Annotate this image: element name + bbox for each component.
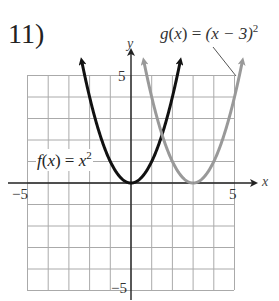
g-label-leader-line bbox=[213, 47, 236, 76]
problem-number: 11) bbox=[8, 18, 44, 50]
x-min-tick-label: −5 bbox=[12, 186, 28, 203]
axes bbox=[8, 52, 254, 300]
x-max-tick-label: 5 bbox=[229, 186, 237, 203]
x-axis-label: x bbox=[262, 174, 268, 190]
y-axis-label: y bbox=[127, 36, 133, 52]
g-function-label: g(x) = (x − 3)2 bbox=[160, 22, 258, 44]
graph-figure: 11) g(x) = (x − 3)2 f(x) = x2 −5 5 5 −5 … bbox=[0, 0, 279, 301]
curves bbox=[82, 61, 243, 183]
y-min-tick-label: −5 bbox=[111, 280, 127, 297]
f-function-label: f(x) = x2 bbox=[36, 149, 93, 171]
y-max-tick-label: 5 bbox=[118, 68, 126, 85]
